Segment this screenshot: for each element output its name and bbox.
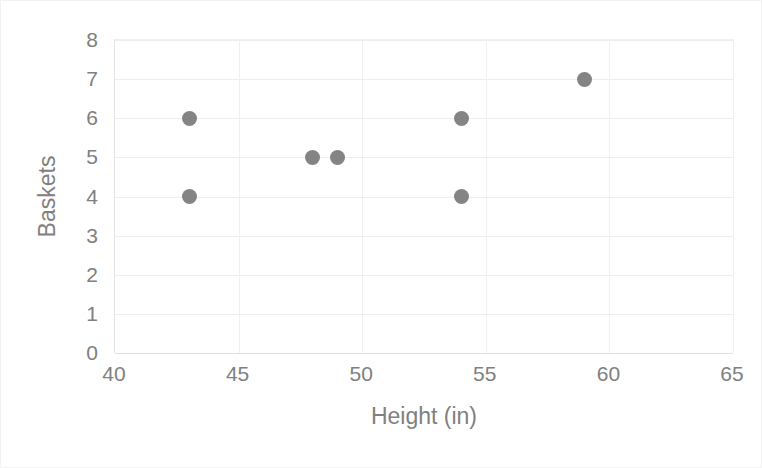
gridline-horizontal	[115, 79, 733, 80]
gridline-vertical	[609, 40, 610, 353]
gridline-vertical	[486, 40, 487, 353]
y-axis-title-text: Baskets	[37, 155, 60, 237]
data-point	[182, 111, 197, 126]
x-axis-tick-label: 45	[226, 363, 249, 384]
x-axis-tick-labels: 404550556065	[114, 363, 734, 393]
data-point	[330, 150, 345, 165]
data-point	[305, 150, 320, 165]
x-axis-tick-label: 65	[720, 363, 743, 384]
x-axis-tick-label: 40	[102, 363, 125, 384]
data-point	[454, 189, 469, 204]
gridline-horizontal	[115, 157, 733, 158]
scatter-chart: 012345678 Baskets 404550556065 Height (i…	[0, 0, 762, 468]
gridline-horizontal	[115, 275, 733, 276]
x-axis-tick-label: 60	[597, 363, 620, 384]
data-point	[577, 72, 592, 87]
x-axis-title: Height (in)	[114, 405, 734, 428]
gridline-horizontal	[115, 236, 733, 237]
gridline-horizontal	[115, 118, 733, 119]
x-axis-tick-label: 55	[473, 363, 496, 384]
data-point	[454, 111, 469, 126]
gridline-vertical	[239, 40, 240, 353]
plot-area	[114, 39, 734, 353]
x-axis-tick-label: 50	[350, 363, 373, 384]
gridline-horizontal	[115, 40, 733, 41]
gridline-horizontal	[115, 314, 733, 315]
y-axis-title: Baskets	[33, 39, 63, 353]
data-point	[182, 189, 197, 204]
gridline-horizontal	[115, 197, 733, 198]
gridline-vertical	[362, 40, 363, 353]
gridline-horizontal	[115, 353, 733, 354]
